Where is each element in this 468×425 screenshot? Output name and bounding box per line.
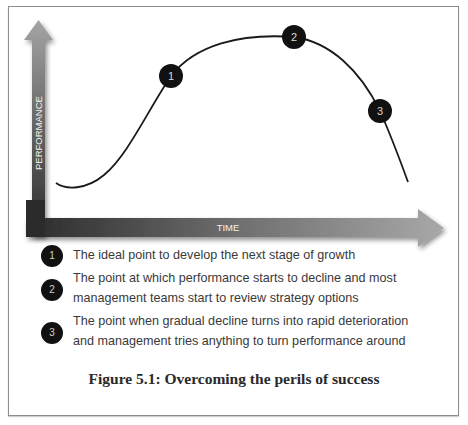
legend-text-3-line-2: and management tries anything to turn pe…	[73, 331, 450, 352]
performance-curve	[56, 36, 408, 187]
legend-text-2-line-1: The point at which performance starts to…	[73, 268, 450, 289]
legend-text-3-line-1: The point when gradual decline turns int…	[73, 311, 450, 332]
marker-2: 2	[282, 25, 306, 49]
y-axis-label: PERFORMANCE	[33, 96, 44, 170]
x-axis-label: TIME	[217, 222, 240, 233]
legend-bullet-3: 3	[41, 322, 63, 344]
legend-bullet-1: 1	[41, 245, 63, 267]
legend-item-3: 3 The point when gradual decline turns i…	[40, 311, 450, 352]
figure-caption: Figure 5.1: Overcoming the perils of suc…	[0, 370, 468, 388]
marker-3: 3	[368, 99, 392, 123]
marker-1: 1	[159, 64, 183, 88]
legend-text-1: The ideal point to develop the next stag…	[73, 245, 450, 266]
legend: 1 The ideal point to develop the next st…	[40, 245, 450, 354]
legend-item-2: 2 The point at which performance starts …	[40, 268, 450, 309]
marker-2-number: 2	[291, 31, 297, 43]
legend-item-1: 1 The ideal point to develop the next st…	[40, 245, 450, 266]
axis-corner	[26, 200, 45, 237]
performance-diagram: PERFORMANCE TIME 1 2 3	[0, 0, 468, 425]
legend-bullet-2: 2	[41, 279, 63, 301]
marker-3-number: 3	[377, 105, 383, 117]
legend-text-2-line-2: management teams start to review strateg…	[73, 288, 450, 309]
marker-1-number: 1	[168, 70, 174, 82]
